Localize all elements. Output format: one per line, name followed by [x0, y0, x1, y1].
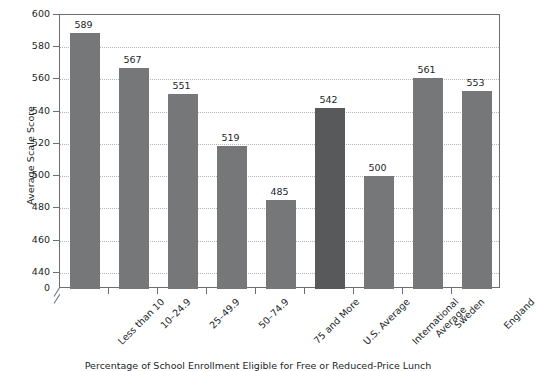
axis-break-icon [51, 294, 65, 310]
bar [413, 78, 443, 289]
x-tick-mark [304, 288, 305, 294]
bar [315, 108, 345, 289]
bar-value-label: 485 [255, 186, 305, 197]
bar [266, 200, 296, 289]
bar [119, 68, 149, 289]
x-tick-mark [157, 288, 158, 294]
bar [217, 146, 247, 289]
x-tick-mark [402, 288, 403, 294]
bar-value-label: 551 [157, 80, 207, 91]
bar [364, 176, 394, 289]
bar-value-label: 567 [108, 54, 158, 65]
y-tick-mark [53, 240, 59, 241]
bar [168, 94, 198, 289]
y-tick-label: 460 [0, 235, 50, 245]
y-tick-label: 500 [0, 170, 50, 180]
gridline [60, 47, 499, 48]
y-tick-label: 540 [0, 106, 50, 116]
x-tick-mark [108, 288, 109, 294]
x-category-label: 75 and More [311, 296, 361, 346]
y-tick-mark [53, 272, 59, 273]
bar-value-label: 553 [451, 77, 501, 88]
x-tick-mark [206, 288, 207, 294]
bar-value-label: 519 [206, 132, 256, 143]
y-tick-label: 560 [0, 73, 50, 83]
y-tick-label: 0 [0, 283, 50, 293]
x-category-label: U.S. Average [360, 296, 411, 347]
y-axis-title: Average Scale Score [25, 66, 36, 246]
bar [70, 33, 100, 289]
x-axis-title: Percentage of School Enrollment Eligible… [0, 360, 516, 371]
y-tick-mark [53, 14, 59, 15]
y-tick-mark [53, 78, 59, 79]
y-tick-mark [53, 175, 59, 176]
x-tick-mark [255, 288, 256, 294]
y-tick-label: 520 [0, 138, 50, 148]
x-tick-mark [353, 288, 354, 294]
x-category-label: 50–74.9 [256, 296, 291, 331]
bar-value-label: 500 [353, 162, 403, 173]
bar-value-label: 542 [304, 94, 354, 105]
x-category-label: 25–49.9 [207, 296, 242, 331]
y-tick-label: 440 [0, 267, 50, 277]
y-tick-mark [53, 143, 59, 144]
y-tick-label: 580 [0, 41, 50, 51]
bar-value-label: 589 [59, 19, 109, 30]
x-tick-mark [451, 288, 452, 294]
y-tick-mark [53, 46, 59, 47]
y-tick-label: 600 [0, 9, 50, 19]
bar [462, 91, 492, 289]
y-tick-label: 480 [0, 202, 50, 212]
x-category-label: England [501, 296, 536, 331]
bar-value-label: 561 [402, 64, 452, 75]
y-tick-mark [53, 207, 59, 208]
y-tick-mark [53, 111, 59, 112]
